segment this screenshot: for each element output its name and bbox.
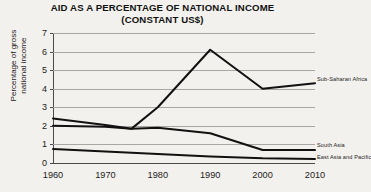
plot-area: 01234567 196019701980199020002010 Sub-Sa… xyxy=(53,33,315,163)
series-line-sub-saharan-africa xyxy=(53,50,315,129)
chart-title-block: AID AS A PERCENTAGE OF NATIONAL INCOME (… xyxy=(0,2,325,25)
x-tick-label-1990: 1990 xyxy=(200,170,220,180)
chart-title: AID AS A PERCENTAGE OF NATIONAL INCOME xyxy=(0,2,325,14)
y-tick-label-7: 7 xyxy=(42,28,47,38)
series-label-sub-saharan-africa: Sub-Saharan Africa xyxy=(317,76,367,82)
x-tick-label-1970: 1970 xyxy=(95,170,115,180)
y-tick-label-4: 4 xyxy=(42,84,47,94)
y-tick-label-2: 2 xyxy=(42,121,47,131)
x-tick-label-1980: 1980 xyxy=(148,170,168,180)
x-tick-label-2010: 2010 xyxy=(305,170,325,180)
x-tick-label-1960: 1960 xyxy=(43,170,63,180)
gridline-0 xyxy=(53,163,315,164)
y-tick-label-6: 6 xyxy=(42,47,47,57)
chart-subtitle: (CONSTANT US$) xyxy=(0,14,325,26)
y-tick-label-5: 5 xyxy=(42,65,47,75)
series-line-south-asia xyxy=(53,118,315,150)
series-label-east-asia-and-pacific: East Asia and Pacific xyxy=(317,154,371,160)
series-label-south-asia: South Asia xyxy=(317,142,345,148)
x-tick-label-2000: 2000 xyxy=(252,170,272,180)
series-layer xyxy=(53,33,315,163)
y-tick-mark-0 xyxy=(50,163,54,164)
y-tick-label-3: 3 xyxy=(42,102,47,112)
y-tick-label-0: 0 xyxy=(42,158,47,168)
y-axis-label: Percentage of gross national income xyxy=(9,3,28,129)
y-tick-label-1: 1 xyxy=(42,139,47,149)
